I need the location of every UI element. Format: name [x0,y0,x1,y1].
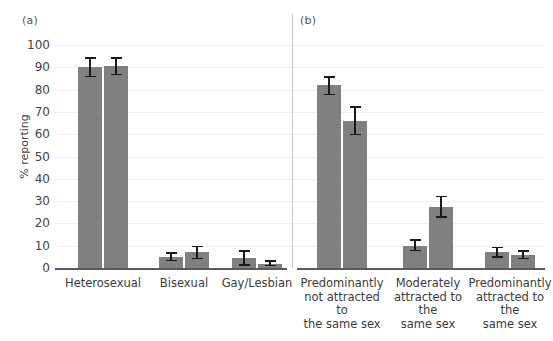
bar [343,121,367,268]
error-bar-cap-top [111,57,122,59]
error-bar [485,247,509,258]
error-bar-whisker [440,196,442,218]
error-bar [104,57,128,75]
error-bar [159,252,183,261]
y-tick-label-30: 30 [16,196,50,206]
error-bar [343,106,367,135]
error-bar-cap-top [265,260,276,262]
panel-divider [292,14,293,268]
x-axis-panel-a [55,268,287,270]
error-bar-cap-bottom [265,265,276,267]
y-tick-label-20: 20 [16,218,50,228]
error-bar-cap-bottom [192,258,203,260]
y-tick-label-10: 10 [16,241,50,251]
gridline-70 [55,112,545,113]
y-tick-label-70: 70 [16,107,50,117]
error-bar-cap-bottom [518,258,529,260]
gridline-90 [55,67,545,68]
error-bar-cap-bottom [239,264,250,266]
gridline-30 [55,201,545,202]
x-category-label-line: attracted to the [467,291,553,318]
error-bar-cap-top [192,246,203,248]
x-category-label-line: Moderately [385,277,471,291]
error-bar [317,76,341,95]
error-bar [511,250,535,259]
error-bar-cap-bottom [324,94,335,96]
gridline-100 [55,45,545,46]
error-bar-cap-bottom [111,74,122,76]
y-tick-label-100: 100 [16,40,50,50]
gridline-20 [55,223,545,224]
error-bar-cap-top [518,250,529,252]
error-bar [78,57,102,77]
error-bar-cap-top [492,247,503,249]
error-bar-cap-bottom [166,260,177,262]
y-tick-label-50: 50 [16,152,50,162]
panel-a-label: (a) [22,14,38,27]
gridline-40 [55,179,545,180]
error-bar [185,246,209,259]
x-category-label-line: same sex [385,318,471,332]
error-bar-whisker [89,57,91,77]
error-bar [403,239,427,251]
gridline-10 [55,246,545,247]
panel-b-label: (b) [300,14,316,27]
error-bar-cap-bottom [410,250,421,252]
error-bar [429,196,453,218]
gridline-50 [55,157,545,158]
x-category-label: Predominantlyattracted to thesame sex [467,277,553,331]
y-tick-label-40: 40 [16,174,50,184]
error-bar-cap-top [166,252,177,254]
x-category-label: Moderatelyattracted to thesame sex [385,277,471,331]
error-bar [258,260,282,266]
bar-chart-figure: (a) (b) % reporting 01020304050607080901… [0,0,553,341]
error-bar-cap-top [410,239,421,241]
y-tick-label-80: 80 [16,85,50,95]
error-bar-cap-top [324,76,335,78]
x-category-label-line: attracted to the [385,291,471,318]
y-tick-label-90: 90 [16,62,50,72]
error-bar-cap-bottom [492,256,503,258]
error-bar-whisker [328,76,330,95]
bar [78,67,102,268]
x-category-label-line: Predominantly [467,277,553,291]
error-bar-cap-top [350,106,361,108]
x-category-label: Predominantlynot attracted tothe same se… [299,277,385,331]
bar [317,85,341,268]
x-category-label-line: not attracted to [299,291,385,318]
y-tick-label-60: 60 [16,129,50,139]
error-bar-cap-bottom [350,134,361,136]
error-bar-whisker [115,57,117,75]
y-tick-label-0: 0 [16,263,50,273]
error-bar-cap-top [436,196,447,198]
gridline-80 [55,90,545,91]
error-bar-cap-bottom [436,216,447,218]
x-category-label-line: the same sex [299,318,385,332]
error-bar [232,250,256,266]
x-category-label: Gay/Lesbian [209,277,305,291]
bar [104,66,128,268]
gridline-60 [55,134,545,135]
error-bar-cap-bottom [85,76,96,78]
x-category-label-line: Predominantly [299,277,385,291]
x-axis-panel-b [297,268,545,270]
error-bar-cap-top [85,57,96,59]
x-category-label-line: same sex [467,318,553,332]
error-bar-whisker [354,106,356,135]
error-bar-cap-top [239,250,250,252]
